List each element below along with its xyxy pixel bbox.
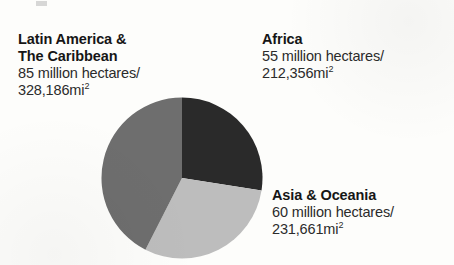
label-africa-value-line2: 212,356mi2 bbox=[262, 65, 384, 82]
label-latin-america-sup: 2 bbox=[84, 81, 89, 91]
label-asia-oceania-value-line1: 60 million hectares/ bbox=[272, 204, 394, 221]
label-latin-america-area: 328,186mi bbox=[18, 82, 84, 98]
pie-chart-graphic bbox=[101, 97, 263, 259]
label-asia-oceania-value-line2: 231,661mi2 bbox=[272, 221, 394, 238]
label-africa-sup: 2 bbox=[328, 64, 333, 74]
label-latin-america-value-line2: 328,186mi2 bbox=[18, 82, 140, 99]
scan-artifact bbox=[36, 1, 47, 6]
label-latin-america-title-line2: The Caribbean bbox=[18, 48, 140, 65]
label-africa-value-line1: 55 million hectares/ bbox=[262, 48, 384, 65]
label-asia-oceania: Asia & Oceania 60 million hectares/ 231,… bbox=[272, 187, 394, 238]
label-latin-america-title-line1: Latin America & bbox=[18, 31, 140, 48]
pie-slice-africa[interactable] bbox=[182, 98, 263, 191]
pie-chart-figure: Latin America & The Caribbean 85 million… bbox=[0, 0, 454, 265]
label-asia-oceania-title: Asia & Oceania bbox=[272, 187, 394, 204]
label-africa: Africa 55 million hectares/ 212,356mi2 bbox=[262, 31, 384, 82]
label-africa-area: 212,356mi bbox=[262, 65, 328, 81]
label-latin-america: Latin America & The Caribbean 85 million… bbox=[18, 31, 140, 99]
label-asia-oceania-area: 231,661mi bbox=[272, 221, 338, 237]
label-asia-oceania-sup: 2 bbox=[338, 220, 343, 230]
label-africa-title: Africa bbox=[262, 31, 384, 48]
label-latin-america-value-line1: 85 million hectares/ bbox=[18, 65, 140, 82]
